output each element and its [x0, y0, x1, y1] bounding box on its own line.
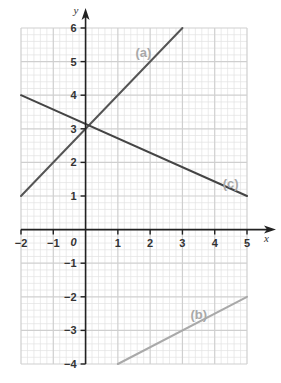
- series-line-a: [21, 28, 182, 196]
- x-tick-label: 4: [212, 237, 219, 249]
- series-label-c: (c): [223, 176, 239, 191]
- y-tick-label: −3: [64, 324, 77, 336]
- y-tick-label: −1: [64, 257, 77, 269]
- y-tick-label: 1: [70, 190, 76, 202]
- series-label-a: (a): [136, 45, 152, 60]
- y-tick-label: −4: [64, 358, 77, 370]
- x-tick-label: 2: [147, 237, 153, 249]
- series-label-b: (b): [190, 307, 207, 322]
- y-tick-label: 3: [70, 123, 76, 135]
- x-tick-label: 3: [179, 237, 185, 249]
- x-tick-label: 5: [244, 237, 250, 249]
- y-tick-label: 6: [70, 22, 76, 34]
- y-tick-label: 2: [70, 156, 76, 168]
- y-tick-label: 4: [70, 89, 77, 101]
- x-axis-label: x: [263, 232, 269, 244]
- x-tick-label: −1: [47, 237, 60, 249]
- y-tick-label: 5: [70, 56, 76, 68]
- x-tick-label: −2: [15, 237, 28, 249]
- x-tick-label: 1: [115, 237, 121, 249]
- y-tick-label: −2: [64, 291, 77, 303]
- series-line-c: [21, 95, 247, 196]
- series-labels: (a)(b)(c): [136, 45, 239, 322]
- origin-label: 0: [70, 236, 77, 248]
- line-graph: −2−112345654321−1−2−3−40xy (a)(b)(c): [0, 0, 281, 383]
- y-axis-label: y: [73, 4, 79, 16]
